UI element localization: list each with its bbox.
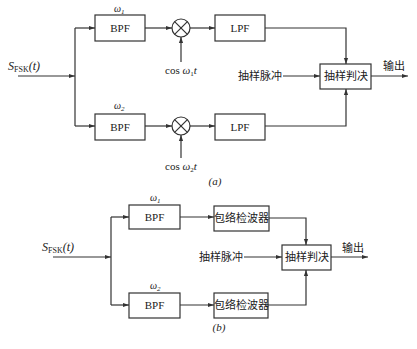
bpf-lower-b-label: BPF <box>145 299 165 311</box>
diagram-a: SFSK(t) ω1 BPF cos ω1t LPF ω2 <box>8 3 408 188</box>
decision-label-b: 抽样判决 <box>285 250 329 264</box>
sampling-pulse-label-a: 抽样脉冲 <box>238 69 282 83</box>
carrier-label-lower-a: cos ω2t <box>165 160 198 174</box>
freq-label-w1-a: ω1 <box>114 3 125 16</box>
caption-a: (a) <box>209 175 222 188</box>
freq-label-w1-b: ω1 <box>150 192 161 205</box>
multiplier-upper-a <box>172 19 190 37</box>
bpf-lower-a-label: BPF <box>110 121 130 133</box>
input-label-b: SFSK(t) <box>42 240 74 255</box>
lpf-lower-a-label: LPF <box>231 121 250 133</box>
carrier-label-upper-a: cos ω1t <box>165 64 198 78</box>
sampling-pulse-label-b: 抽样脉冲 <box>199 250 243 264</box>
freq-label-w2-a: ω2 <box>114 100 125 113</box>
lpf-upper-a-label: LPF <box>231 22 250 34</box>
input-label-a: SFSK(t) <box>8 59 40 74</box>
diagram-b: SFSK(t) ω1 BPF 包络检波器 ω2 BPF 包络检波器 抽样脉冲 抽… <box>42 192 368 334</box>
output-label-b: 输出 <box>342 241 364 255</box>
output-label-a: 输出 <box>383 59 405 73</box>
envelope-detector-lower-b-label: 包络检波器 <box>214 298 269 312</box>
envelope-detector-upper-b-label: 包络检波器 <box>214 211 269 225</box>
caption-b: (b) <box>213 321 226 334</box>
freq-label-w2-b: ω2 <box>150 280 161 293</box>
bpf-upper-b-label: BPF <box>145 211 165 223</box>
decision-label-a: 抽样判决 <box>324 69 368 83</box>
multiplier-lower-a <box>172 117 190 135</box>
bpf-upper-a-label: BPF <box>110 22 130 34</box>
